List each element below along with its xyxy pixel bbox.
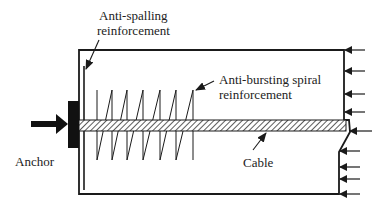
cable-leader-arrow-icon: [253, 133, 266, 150]
anti-bursting-label-line2: reinforcement: [219, 87, 292, 102]
anchor-plate: [68, 101, 79, 148]
cable: [79, 120, 346, 131]
cable-label: Cable: [243, 155, 274, 170]
anti-spalling-leader-arrow-icon: [86, 40, 99, 69]
anchor-force-arrow-icon: [31, 114, 68, 134]
anti-bursting-label-line1: Anti-bursting spiral: [219, 72, 322, 87]
anti-bursting-leader-arrow-icon: [196, 81, 214, 90]
anchor-label: Anchor: [15, 154, 55, 169]
anti-spalling-label-line1: Anti-spalling: [99, 8, 168, 23]
anchorage-zone-diagram: Anti-spalling reinforcement Anti-burstin…: [0, 0, 388, 212]
anti-spalling-label-line2: reinforcement: [97, 23, 170, 38]
